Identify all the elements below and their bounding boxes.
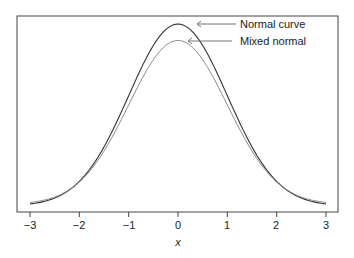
tick-label-neg2: −2 (73, 219, 86, 231)
mixed-normal-line (30, 40, 326, 202)
curves (30, 24, 326, 204)
x-axis-ticks (30, 212, 326, 217)
annotation-normal-curve: Normal curve (197, 18, 305, 30)
tick-label-neg3: −3 (24, 219, 37, 231)
tick-label-neg1: −1 (123, 219, 136, 231)
tick-label-1: 1 (224, 219, 230, 231)
x-axis-tick-labels: −3 −2 −1 0 1 2 3 (24, 219, 329, 231)
tick-label-0: 0 (175, 219, 181, 231)
tick-label-2: 2 (273, 219, 279, 231)
annotation-label-mixed: Mixed normal (240, 35, 306, 47)
tick-label-3: 3 (323, 219, 329, 231)
x-axis-label: x (174, 236, 181, 248)
normal-curve-line (30, 24, 326, 204)
annotation-mixed-normal: Mixed normal (188, 35, 306, 47)
annotation-label-normal: Normal curve (240, 18, 305, 30)
density-chart: −3 −2 −1 0 1 2 3 x Normal curve Mixed no… (0, 0, 354, 258)
